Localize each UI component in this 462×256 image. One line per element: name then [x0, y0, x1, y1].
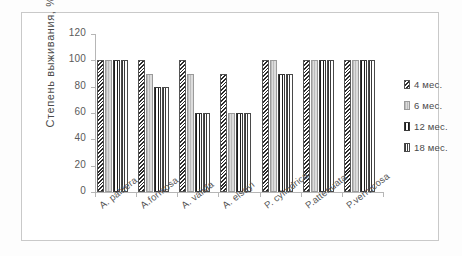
y-tick-label: 0	[80, 185, 86, 196]
bar	[121, 60, 128, 192]
bar	[220, 74, 227, 193]
y-tick-label: 80	[74, 80, 86, 91]
y-tick-label: 40	[74, 132, 86, 143]
legend-label: 6 мес.	[414, 100, 442, 111]
legend-item[interactable]: 18 мес.	[404, 137, 462, 158]
x-tick-mark	[136, 192, 137, 197]
bar	[187, 74, 194, 193]
legend-swatch-icon	[404, 101, 410, 110]
y-tick: 80	[21, 87, 95, 88]
bar	[146, 74, 153, 193]
x-axis-labels: A. paliferaA.formosaA. validaA. elseyiP.…	[21, 198, 439, 246]
legend-swatch-icon	[404, 80, 410, 89]
y-tick: 40	[21, 139, 95, 140]
y-tick: 0	[21, 192, 95, 193]
bar-groups	[95, 34, 384, 192]
bar	[97, 60, 104, 192]
bar	[154, 87, 161, 192]
bar	[270, 60, 277, 192]
legend-label: 18 мес.	[414, 142, 448, 153]
y-tick: 120	[21, 34, 95, 35]
bar	[352, 60, 359, 192]
chart-figure: Степень выживания, % 120100806040200 A. …	[0, 0, 462, 256]
bar-group	[301, 34, 342, 192]
bar-group	[95, 34, 136, 192]
bar-group	[136, 34, 177, 192]
bar	[113, 60, 120, 192]
legend-item[interactable]: 6 мес.	[404, 95, 462, 116]
legend-item[interactable]: 4 мес.	[404, 74, 462, 95]
legend-item[interactable]: 12 мес.	[404, 116, 462, 137]
x-tick-mark	[383, 192, 384, 197]
bar	[262, 60, 269, 192]
bar	[105, 60, 112, 192]
bar	[162, 87, 169, 192]
y-tick-label: 100	[69, 53, 86, 64]
bar	[228, 113, 235, 192]
bar	[319, 60, 326, 192]
bar-group	[218, 34, 259, 192]
chart-plot-area: Степень выживания, % 120100806040200 A. …	[21, 12, 439, 241]
bar	[179, 60, 186, 192]
y-tick-label: 60	[74, 106, 86, 117]
bar	[311, 60, 318, 192]
bar	[138, 60, 145, 192]
bar	[286, 74, 293, 193]
bar	[278, 74, 285, 193]
x-tick-mark	[177, 192, 178, 197]
y-tick: 100	[21, 60, 95, 61]
x-tick-mark	[95, 192, 96, 197]
y-tick: 20	[21, 166, 95, 167]
bar	[360, 60, 367, 192]
legend-swatch-icon	[404, 122, 410, 131]
y-tick-label: 120	[69, 27, 86, 38]
legend-swatch-icon	[404, 143, 410, 152]
bar	[195, 113, 202, 192]
bar-group	[260, 34, 301, 192]
y-axis-title: Степень выживания, %	[44, 0, 56, 137]
y-tick: 60	[21, 113, 95, 114]
bar-group	[177, 34, 218, 192]
bar	[344, 60, 351, 192]
x-tick-mark	[301, 192, 302, 197]
legend-label: 12 мес.	[414, 121, 448, 132]
legend-label: 4 мес.	[414, 79, 442, 90]
x-tick-mark	[260, 192, 261, 197]
y-tick-label: 20	[74, 159, 86, 170]
bar-group	[342, 34, 383, 192]
bar	[236, 113, 243, 192]
bar	[327, 60, 334, 192]
bar	[368, 60, 375, 192]
chart-legend: 4 мес.6 мес.12 мес.18 мес.	[404, 74, 462, 158]
x-tick-mark	[218, 192, 219, 197]
x-tick-mark	[342, 192, 343, 197]
